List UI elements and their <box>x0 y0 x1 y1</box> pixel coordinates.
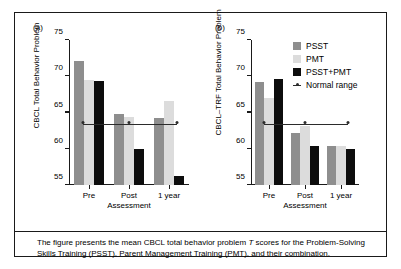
y-tick <box>247 148 251 149</box>
bar <box>94 81 104 185</box>
normal-range-marker <box>304 121 307 124</box>
normal-range-icon <box>293 81 301 89</box>
legend-item: PSST <box>293 39 358 52</box>
panel-b-y-axis <box>251 40 252 185</box>
panel-a-y-axis <box>69 40 70 185</box>
y-tick-label: 75 <box>54 28 63 36</box>
bar <box>346 149 355 185</box>
x-axis-category-label: Post <box>297 191 313 200</box>
legend-label: PSST <box>306 41 328 51</box>
y-tick <box>247 39 251 40</box>
x-axis-category-label: Pre <box>263 191 275 200</box>
normal-range-line <box>83 124 176 125</box>
panel-a-plot-area: 5560657075 <box>69 40 189 185</box>
panel-b-x-axis-title: Assessment <box>283 201 327 210</box>
legend-label: Normal range <box>306 80 358 90</box>
legend-swatch <box>293 55 301 63</box>
panel-a-y-axis-title: CBCL Total Behavior Problem <box>32 16 41 136</box>
x-axis-category-label: 1 year <box>330 191 352 200</box>
y-tick-label: 70 <box>236 64 245 72</box>
y-tick <box>247 75 251 76</box>
legend-item: PMT <box>293 52 358 65</box>
y-tick-label: 65 <box>236 101 245 109</box>
x-tick <box>89 185 90 189</box>
legend-item: PSST+PMT <box>293 65 358 78</box>
legend-item: Normal range <box>293 78 358 91</box>
y-tick-label: 75 <box>236 28 245 36</box>
figure-container: (a) CBCL Total Behavior Problem 55606570… <box>14 12 387 257</box>
bar <box>134 149 144 185</box>
legend-swatch <box>293 42 301 50</box>
bar <box>327 146 336 185</box>
bar <box>336 146 345 185</box>
x-tick <box>169 185 170 189</box>
normal-range-marker <box>175 121 178 124</box>
x-axis-category-label: Post <box>121 191 137 200</box>
bar <box>174 176 184 185</box>
caption-text-before: The figure presents the mean CBCL total … <box>37 238 248 247</box>
x-tick <box>269 185 270 189</box>
y-tick-label: 60 <box>54 137 63 145</box>
bar <box>154 118 164 185</box>
normal-range-marker <box>262 121 265 124</box>
bar <box>264 98 273 185</box>
bar <box>310 146 319 185</box>
x-tick <box>305 185 306 189</box>
x-tick <box>341 185 342 189</box>
y-tick-label: 65 <box>54 101 63 109</box>
chart-panel-a: (a) CBCL Total Behavior Problem 55606570… <box>23 19 203 204</box>
bar <box>291 133 300 185</box>
y-tick <box>247 184 251 185</box>
bar <box>164 101 174 185</box>
x-tick <box>129 185 130 189</box>
normal-range-line <box>264 124 348 125</box>
y-tick <box>247 111 251 112</box>
bar <box>255 82 264 185</box>
figure-caption: The figure presents the mean CBCL total … <box>37 237 376 259</box>
y-tick <box>65 111 69 112</box>
y-tick <box>65 75 69 76</box>
y-tick-label: 55 <box>236 173 245 181</box>
panel-b-y-axis-title: CBCL–TRF Total Behavior Problem <box>214 16 223 136</box>
chart-legend: PSSTPMTPSST+PMTNormal range <box>293 39 358 91</box>
bar <box>84 80 94 185</box>
y-tick-label: 70 <box>54 64 63 72</box>
normal-range-marker <box>128 121 131 124</box>
normal-range-marker <box>346 121 349 124</box>
y-tick <box>65 148 69 149</box>
y-tick-label: 60 <box>236 137 245 145</box>
panel-a-x-axis-title: Assessment <box>107 201 151 210</box>
y-tick <box>65 39 69 40</box>
bar <box>274 79 283 185</box>
normal-range-marker <box>82 121 85 124</box>
y-tick-label: 55 <box>54 173 63 181</box>
legend-label: PMT <box>306 54 324 64</box>
bar <box>300 126 309 185</box>
x-axis-category-label: 1 year <box>158 191 180 200</box>
legend-label: PSST+PMT <box>306 67 351 77</box>
caption-divider <box>15 231 386 232</box>
x-axis-category-label: Pre <box>83 191 95 200</box>
legend-swatch <box>293 68 301 76</box>
bar <box>124 117 134 185</box>
y-tick <box>65 184 69 185</box>
